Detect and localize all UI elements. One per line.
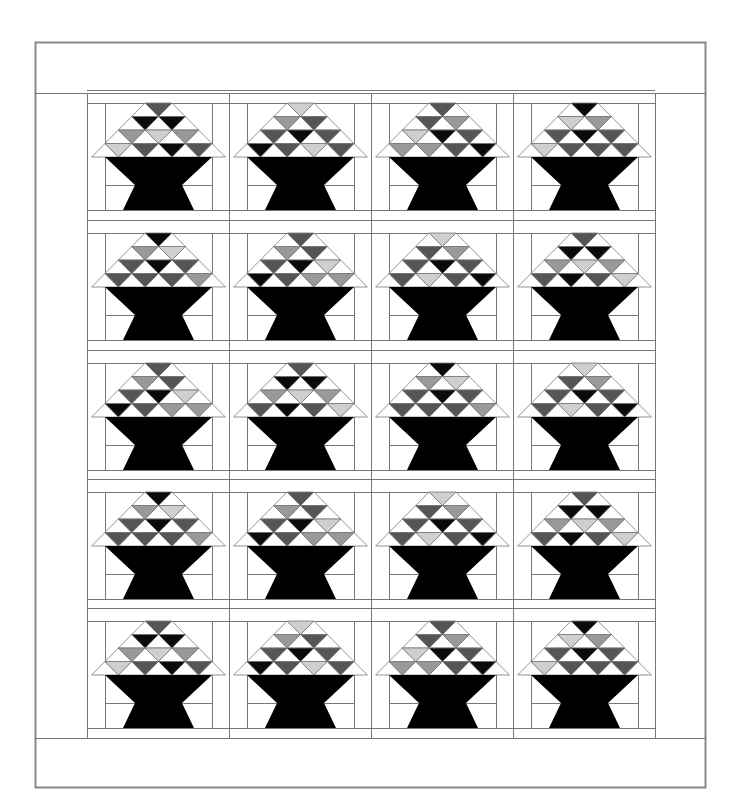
block-grid — [87, 91, 655, 739]
quilt-diagram — [0, 0, 743, 805]
